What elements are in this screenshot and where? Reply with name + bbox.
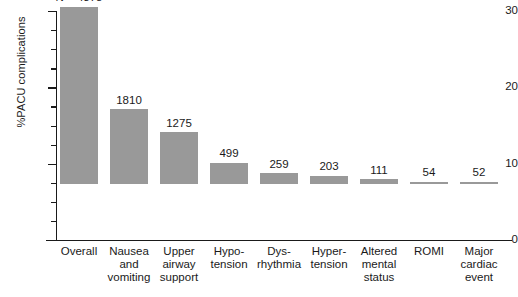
bar-chart-figure: %PACU complications 0102030 N = 43781810…	[0, 0, 518, 297]
bar-value-label: N = 4378	[56, 0, 103, 4]
plot-area: N = 4378181012754992592031115452	[0, 0, 518, 241]
bar-group[interactable]: 111	[360, 179, 398, 184]
bar-value-label: 203	[319, 161, 338, 173]
bar-value-label: 111	[370, 165, 387, 177]
bar-group[interactable]: 52	[460, 182, 498, 184]
x-axis-category-label: Major cardiac event	[454, 245, 504, 285]
x-axis-category-label: ROMI	[404, 245, 454, 258]
bar-group[interactable]: 499	[210, 163, 248, 184]
bar[interactable]	[410, 182, 448, 184]
x-axis-category-label: Dys- rhythmia	[254, 245, 304, 271]
bar[interactable]	[160, 132, 198, 184]
bar[interactable]	[260, 173, 298, 184]
bar-group[interactable]: 1275	[160, 132, 198, 184]
x-axis-category-label: Nausea and vomiting	[104, 245, 154, 285]
bar[interactable]	[460, 182, 498, 184]
bar-value-label: 1275	[166, 118, 192, 130]
bar[interactable]	[110, 109, 148, 184]
x-axis-category-label: Overall	[54, 245, 104, 258]
bar[interactable]	[60, 7, 98, 184]
x-axis-category-label: Altered mental status	[354, 245, 404, 285]
bar[interactable]	[210, 163, 248, 184]
x-axis-category-label: Hypo- tension	[204, 245, 254, 271]
bar-group[interactable]: 1810	[110, 109, 148, 184]
bar-value-label: 52	[473, 167, 486, 179]
bar[interactable]	[360, 179, 398, 184]
bar-group[interactable]: 203	[310, 176, 348, 184]
bar-value-label: 499	[219, 148, 238, 160]
bar-value-label: 54	[423, 167, 436, 179]
bar-value-label: 259	[269, 159, 288, 171]
bar-value-label: 1810	[116, 95, 142, 107]
bar[interactable]	[310, 176, 348, 184]
bar-group[interactable]: 259	[260, 173, 298, 184]
x-axis-category-label: Upper airway support	[154, 245, 204, 285]
bar-group[interactable]: N = 4378	[60, 7, 98, 184]
x-axis-category-label: Hyper- tension	[304, 245, 354, 271]
bar-group[interactable]: 54	[410, 182, 448, 184]
